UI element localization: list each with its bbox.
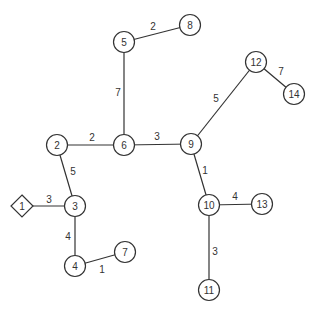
node-label: 11 — [204, 285, 215, 296]
node-label: 13 — [256, 199, 268, 210]
edge-weight-label: 3 — [212, 246, 218, 257]
node-label: 9 — [188, 139, 194, 150]
edge-weight-label: 3 — [46, 194, 52, 205]
node-label: 7 — [122, 247, 128, 258]
node-label: 5 — [121, 37, 127, 48]
edge-weight-label: 7 — [278, 66, 284, 77]
node-label: 3 — [72, 201, 78, 212]
edge-weight-label: 7 — [115, 87, 121, 98]
edge-weight-label: 4 — [232, 191, 238, 202]
node-9: 9 — [181, 134, 202, 155]
node-label: 14 — [288, 89, 300, 100]
node-label: 8 — [187, 20, 193, 31]
node-13: 13 — [252, 194, 273, 215]
node-4: 4 — [65, 256, 86, 277]
node-12: 12 — [246, 52, 267, 73]
nodes-layer: 1234567891011121314 — [11, 15, 305, 301]
edge-weight-label: 1 — [99, 264, 105, 275]
edge-weight-label: 2 — [89, 132, 95, 143]
node-label: 4 — [72, 261, 78, 272]
node-label: 6 — [121, 140, 127, 151]
node-label: 1 — [19, 201, 25, 212]
edge-9-12 — [191, 62, 256, 144]
node-1: 1 — [11, 195, 33, 217]
node-label: 12 — [250, 57, 262, 68]
node-7: 7 — [115, 242, 136, 263]
node-2: 2 — [47, 135, 68, 156]
edge-weight-label: 4 — [65, 231, 71, 242]
node-8: 8 — [180, 15, 201, 36]
edge-weight-label: 3 — [154, 131, 160, 142]
edge-weight-label: 2 — [150, 21, 156, 32]
node-14: 14 — [284, 84, 305, 105]
edge-weight-label: 1 — [202, 165, 208, 176]
node-3: 3 — [65, 196, 86, 217]
edge-weight-label: 5 — [70, 166, 76, 177]
node-10: 10 — [199, 195, 220, 216]
node-label: 10 — [203, 200, 215, 211]
weighted-tree-diagram: 3541272357143 1234567891011121314 — [0, 0, 317, 315]
node-11: 11 — [199, 280, 220, 301]
node-6: 6 — [114, 135, 135, 156]
edge-weight-label: 5 — [213, 93, 219, 104]
node-label: 2 — [54, 140, 60, 151]
node-5: 5 — [114, 32, 135, 53]
